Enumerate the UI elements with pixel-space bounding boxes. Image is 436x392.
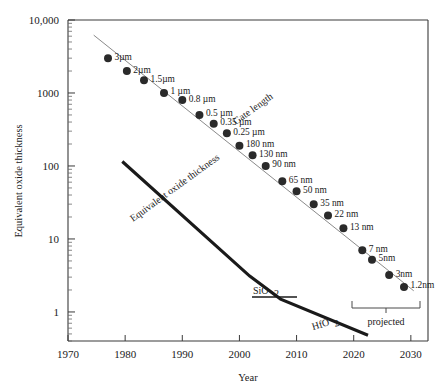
data-point: [293, 187, 301, 195]
y-tick-label: 1: [54, 306, 60, 318]
bracket-path: [352, 301, 420, 308]
data-point: [123, 67, 131, 75]
plot-frame: [68, 20, 428, 341]
x-tick-label: 2020: [343, 348, 366, 360]
hfo2-text: HfO: [310, 316, 330, 332]
sio2-subscript: 2: [274, 288, 279, 299]
x-tick-label: 1970: [57, 348, 80, 360]
data-point: [160, 89, 168, 97]
data-point: [104, 54, 112, 62]
data-point-label: 35 nm: [320, 198, 344, 208]
data-point: [140, 76, 148, 84]
hfo2-label: HfO 2: [310, 316, 340, 332]
data-point-label: 2µm: [133, 65, 151, 75]
data-point-label: 5nm: [379, 253, 396, 263]
data-point: [339, 224, 347, 232]
data-point: [324, 211, 332, 219]
x-axis-title: Year: [238, 372, 258, 383]
data-point: [223, 129, 231, 137]
data-point-label: 180 nm: [246, 139, 275, 149]
x-axis-tick-labels: 1970198019902000201020202030: [57, 348, 422, 360]
y-tick-label: 10: [48, 233, 60, 245]
data-point: [278, 177, 286, 185]
data-point-label: 50 nm: [303, 185, 327, 195]
projected-label: projected: [367, 316, 404, 327]
gate-length-annotation: Gate length: [231, 90, 275, 126]
data-point-label: 1.5µm: [151, 74, 176, 84]
data-point: [195, 111, 203, 119]
x-tick-label: 1990: [171, 348, 194, 360]
x-tick-label: 1980: [114, 348, 137, 360]
data-point-label: 0.25 µm: [233, 127, 265, 137]
data-point: [262, 162, 270, 170]
data-point: [310, 200, 318, 208]
gate-length-data-points: 3µm2µm1.5µm1 µm0.8 µm0.5 µm0.35 µm0.25 µ…: [104, 52, 435, 291]
data-point: [368, 256, 376, 264]
data-point-label: 22 nm: [335, 209, 359, 219]
data-point-label: 3nm: [396, 269, 413, 279]
y-tick-label: 1000: [37, 87, 60, 99]
data-point: [385, 271, 393, 279]
data-point: [178, 96, 186, 104]
sio2-text: SiO: [253, 285, 269, 296]
chart-figure: 110100100010,000 19701980199020002010202…: [0, 0, 436, 392]
y-tick-label: 100: [43, 160, 60, 172]
data-point-label: 13 nm: [350, 222, 374, 232]
chart-canvas: 110100100010,000 19701980199020002010202…: [0, 0, 436, 392]
x-tick-label: 2000: [228, 348, 251, 360]
data-point: [400, 283, 408, 291]
data-point: [235, 142, 243, 150]
data-point: [249, 151, 257, 159]
x-tick-label: 2030: [400, 348, 423, 360]
y-axis-title: Equivalent oxide thickness: [13, 124, 24, 237]
data-point-label: 1.2nm: [411, 280, 435, 290]
eot-curve-annotation: Equivalent oxide thickness: [128, 151, 222, 223]
data-point-label: 90 nm: [272, 159, 296, 169]
x-axis-ticks: [68, 335, 411, 341]
data-point: [358, 246, 366, 254]
data-point-label: 65 nm: [289, 175, 313, 185]
y-axis-ticks: [68, 20, 75, 341]
data-point: [210, 120, 218, 128]
y-tick-label: 10,000: [29, 14, 60, 26]
x-tick-label: 2010: [286, 348, 309, 360]
data-point-label: 130 nm: [259, 149, 288, 159]
projected-bracket: [352, 301, 420, 313]
data-point-label: 0.8 µm: [189, 94, 216, 104]
y-axis-tick-labels: 110100100010,000: [29, 14, 60, 318]
equivalent-oxide-thickness-line: [122, 162, 368, 336]
data-point-label: 3µm: [115, 52, 133, 62]
